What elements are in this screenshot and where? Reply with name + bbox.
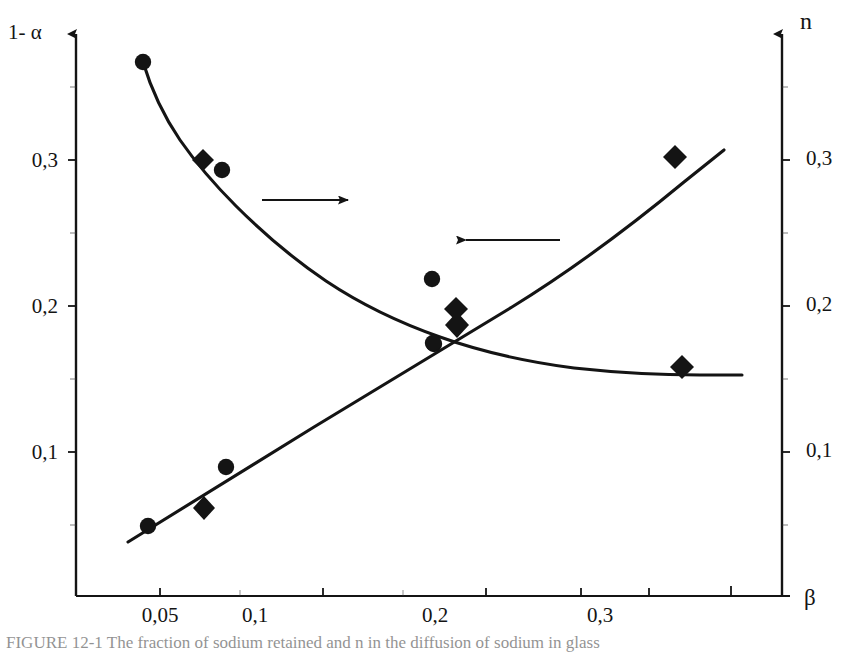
x-axis-ticks (160, 586, 731, 596)
data-point-circle (214, 162, 230, 178)
x-axis-tick-label-3: 0,3 (560, 603, 640, 628)
left-axis-tick-label-2: 0,1 (0, 440, 58, 465)
left-axis-tick-label-0: 0,3 (0, 148, 58, 173)
data-point-circle (135, 54, 151, 70)
markers-one-minus-alpha (135, 54, 694, 379)
x-axis-tick-label-0: 0,05 (110, 603, 210, 628)
right-axis-tick-label-1: 0,2 (806, 292, 832, 317)
data-point-circle (424, 271, 440, 287)
right-axis-tick-label-2: 0,1 (806, 438, 832, 463)
x-axis-tick-label-2: 0,2 (395, 603, 475, 628)
data-point-diamond (663, 145, 687, 169)
data-point-diamond (192, 149, 214, 171)
right-axis-tick-label-0: 0,3 (806, 146, 832, 171)
x-axis-tick-label-1: 0,1 (215, 603, 295, 628)
right-axis-title: n (800, 8, 812, 35)
data-point-diamond (444, 297, 468, 321)
left-axis-title: 1- α (8, 20, 42, 45)
left-axis-tick-label-1: 0,2 (0, 294, 58, 319)
data-point-circle (140, 518, 156, 534)
x-axis-title: β (804, 585, 816, 611)
markers-n (140, 145, 687, 534)
chart-plot-area (0, 0, 866, 653)
data-point-circle (218, 459, 234, 475)
curve-one-minus-alpha (143, 62, 742, 375)
figure-caption: FIGURE 12-1 The fraction of sodium retai… (0, 632, 866, 653)
data-point-circle (425, 335, 441, 351)
figure-root: 1- α n β 0,3 0,2 0,1 0,3 0,2 0,1 0,05 0,… (0, 0, 866, 653)
